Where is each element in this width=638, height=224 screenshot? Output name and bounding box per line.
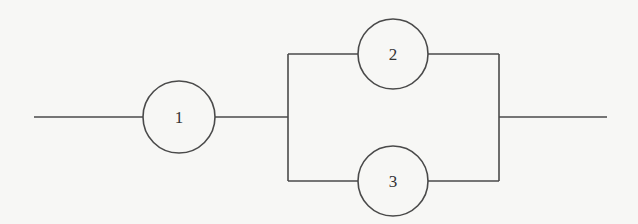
reliability-block-diagram: 1 2 3 xyxy=(0,0,638,224)
node-1-label: 1 xyxy=(159,108,199,128)
diagram-svg xyxy=(0,0,638,224)
node-3-label: 3 xyxy=(373,172,413,192)
node-2-label: 2 xyxy=(373,45,413,65)
